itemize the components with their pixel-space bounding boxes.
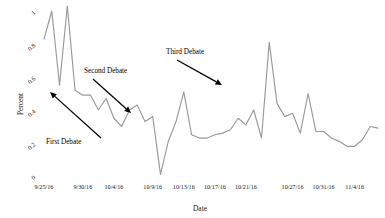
- x-tick-label: 10/31/16: [313, 183, 335, 190]
- annotation-arrow-shaft: [177, 60, 216, 82]
- y-tick-label: 0.4: [26, 108, 36, 118]
- y-tick-label: 0.8: [26, 42, 36, 52]
- x-tick-label: 11/4/16: [345, 183, 364, 190]
- x-axis-title: Date: [193, 204, 208, 213]
- annotation-label: Second Debate: [84, 67, 127, 75]
- y-tick-label: 0.2: [26, 141, 36, 151]
- annotation-label: Third Debate: [166, 48, 204, 56]
- x-tick-label: 10/17/16: [204, 183, 226, 190]
- x-tick-label: 9/25/16: [35, 183, 54, 190]
- x-axis-tick-labels: 9/25/169/30/1610/4/1610/9/1610/13/1610/1…: [35, 183, 365, 190]
- y-axis-title: Percent: [16, 92, 25, 115]
- y-tick-label: 0: [30, 174, 37, 181]
- y-tick-label: 0.6: [26, 75, 36, 85]
- x-tick-label: 10/27/16: [282, 183, 304, 190]
- annotation-arrow-shaft: [93, 79, 126, 109]
- x-tick-label: 10/21/16: [235, 183, 257, 190]
- data-series-line: [44, 6, 378, 174]
- line-chart-plot: 00.20.40.60.81 9/25/169/30/1610/4/1610/9…: [0, 0, 385, 218]
- y-axis-tick-labels: 00.20.40.60.81: [26, 9, 36, 181]
- x-tick-label: 9/30/16: [73, 183, 92, 190]
- y-tick-label: 1: [30, 9, 37, 16]
- chart-figure: 00.20.40.60.81 9/25/169/30/1610/4/1610/9…: [0, 0, 385, 218]
- x-tick-label: 10/13/16: [173, 183, 195, 190]
- x-tick-label: 10/4/16: [104, 183, 123, 190]
- annotation-label: First Debate: [46, 138, 81, 146]
- x-tick-label: 10/9/16: [143, 183, 162, 190]
